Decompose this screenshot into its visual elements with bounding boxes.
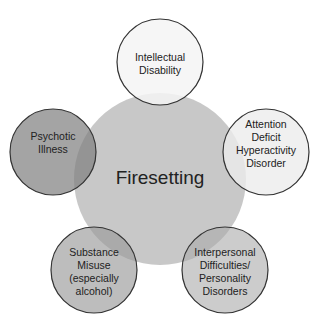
factor-label-line: Interpersonal [194, 246, 255, 258]
factor-label-line: Misuse [77, 259, 110, 271]
factor-label-line: Attention [245, 118, 287, 130]
factor-label-line: Disorders [203, 285, 248, 297]
factor-label-line: Psychotic [31, 130, 76, 142]
factor-label-line: Deficit [251, 131, 280, 143]
factor-label-line: Disorder [246, 157, 286, 169]
factor-label-line: (especially [69, 272, 119, 284]
factor-label-line: Illness [38, 143, 68, 155]
factor-label-line: Difficulties/ [200, 259, 251, 271]
factor-substance-misuse: Substance Misuse (especially alcohol) [69, 246, 119, 297]
firesetting-diagram: Firesetting Intellectual Disability Atte… [0, 0, 320, 325]
factor-label-line: Disability [139, 64, 182, 76]
factor-label-line: Substance [69, 246, 119, 258]
center-label: Firesetting [116, 167, 205, 188]
factor-intellectual-disability: Intellectual Disability [135, 51, 185, 76]
factor-interpersonal: Interpersonal Difficulties/ Personality … [194, 246, 255, 297]
factor-label-line: Intellectual [135, 51, 185, 63]
factor-label-line: alcohol) [76, 285, 113, 297]
factor-label-line: Personality [199, 272, 252, 284]
factor-label-line: Hyperactivity [236, 144, 297, 156]
